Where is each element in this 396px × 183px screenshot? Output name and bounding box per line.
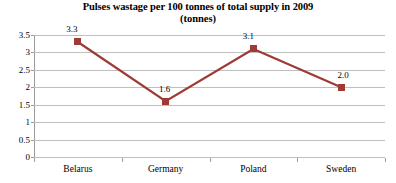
data-point-label: 1.6 xyxy=(153,85,177,94)
x-axis-category-label: Poland xyxy=(209,164,297,175)
data-marker xyxy=(338,84,345,91)
x-axis-category-label: Germany xyxy=(122,164,210,175)
data-marker xyxy=(74,38,81,45)
y-axis-tick-label: 2 xyxy=(4,83,30,92)
data-marker xyxy=(250,45,257,52)
y-axis-tick-label: 0 xyxy=(4,153,30,162)
x-axis-tick-mark xyxy=(122,158,123,162)
page-title: Pulses wastage per 100 tonnes of total s… xyxy=(0,1,396,13)
data-point-label: 3.3 xyxy=(60,25,84,34)
x-axis-tick-mark xyxy=(34,158,35,162)
data-point-label: 2.0 xyxy=(331,71,355,80)
x-axis-category-label: Sweden xyxy=(297,164,385,175)
y-axis-tick-label: 3.5 xyxy=(4,31,30,40)
x-axis-tick-mark xyxy=(385,158,386,162)
data-marker xyxy=(162,98,169,105)
y-axis-tick-label: 1.5 xyxy=(4,101,30,110)
gridline xyxy=(34,157,385,158)
plot-area: 3.31.63.12.0 xyxy=(34,35,385,157)
line-chart: Pulses wastage per 100 tonnes of total s… xyxy=(0,0,396,183)
x-axis-tick-mark xyxy=(297,158,298,162)
data-point-label: 3.1 xyxy=(236,32,260,41)
y-axis-tick-label: 3 xyxy=(4,48,30,57)
y-axis-tick-label: 2.5 xyxy=(4,66,30,75)
y-axis-tick-label: 0.5 xyxy=(4,136,30,145)
series-line xyxy=(34,35,385,157)
chart-title-block: Pulses wastage per 100 tonnes of total s… xyxy=(0,1,396,25)
chart-subtitle: (tonnes) xyxy=(0,13,396,25)
y-axis-tick-label: 1 xyxy=(4,118,30,127)
x-axis-tick-mark xyxy=(210,158,211,162)
x-axis-category-label: Belarus xyxy=(34,164,122,175)
